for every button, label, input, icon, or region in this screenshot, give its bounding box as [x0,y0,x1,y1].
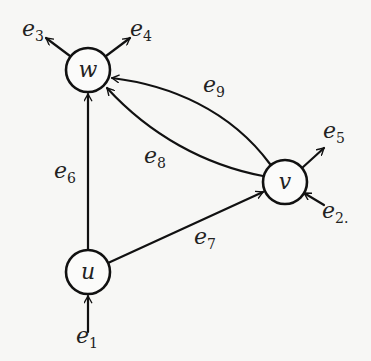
edge-e4 [106,38,130,56]
node-u-label: u [81,259,95,284]
node-u: u [66,250,110,294]
node-v-label: v [279,169,292,194]
edge-label-e9: e9 [203,72,225,100]
edge-label-e8: e8 [144,143,166,171]
edge-e3 [46,38,70,56]
edge-label-e6: e6 [54,158,76,186]
edge-label-e2: e2. [322,198,348,226]
edge-e7 [108,192,263,263]
edge-label-e5: e5 [323,118,345,146]
edge-label-e7: e7 [194,224,216,252]
node-w: w [66,48,110,92]
edge-label-e4: e4 [130,16,152,44]
node-v: v [263,160,307,204]
edge-e5 [302,148,324,168]
graph-diagram: w v u e1 e2. e3 e4 e5 e6 e7 e8 e9 [0,0,371,361]
edge-label-e3: e3 [22,16,44,44]
node-w-label: w [79,57,98,82]
edge-e2 [304,193,324,205]
edge-label-e1: e1 [76,323,98,351]
